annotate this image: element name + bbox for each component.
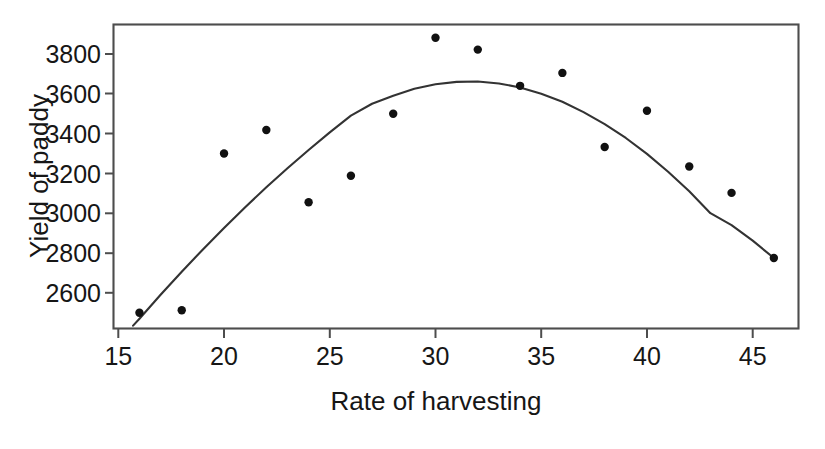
scatter-plot-svg: 3800 3600 3400 3200 3000 2800 2600 15 20… bbox=[0, 0, 825, 449]
y-axis-title: Yield of paddy bbox=[24, 94, 54, 258]
data-point bbox=[135, 309, 143, 317]
data-point bbox=[643, 107, 651, 115]
data-point bbox=[389, 110, 397, 118]
data-point bbox=[431, 33, 439, 41]
data-point bbox=[262, 126, 270, 134]
data-point bbox=[727, 189, 735, 197]
x-axis-tick-labels: 15 20 25 30 35 40 45 bbox=[104, 342, 766, 370]
x-axis-title: Rate of harvesting bbox=[330, 386, 541, 416]
x-tick-label-25: 25 bbox=[316, 342, 344, 370]
x-tick-label-45: 45 bbox=[739, 342, 767, 370]
data-point bbox=[304, 198, 312, 206]
data-point bbox=[220, 149, 228, 157]
x-tick-label-20: 20 bbox=[210, 342, 238, 370]
plot-frame bbox=[114, 25, 799, 329]
quadratic-fit-curve bbox=[133, 81, 774, 325]
data-points-group bbox=[135, 33, 778, 316]
data-point bbox=[474, 45, 482, 53]
y-tick-label-2600: 2600 bbox=[45, 279, 101, 307]
x-tick-label-15: 15 bbox=[104, 342, 132, 370]
data-point bbox=[558, 69, 566, 77]
data-point bbox=[770, 254, 778, 262]
data-point bbox=[178, 306, 186, 314]
fit-curve-group bbox=[133, 81, 774, 325]
y-axis-ticks bbox=[105, 54, 113, 293]
x-tick-label-30: 30 bbox=[422, 342, 450, 370]
y-tick-label-3800: 3800 bbox=[45, 40, 101, 68]
x-tick-label-40: 40 bbox=[633, 342, 661, 370]
chart-figure: 3800 3600 3400 3200 3000 2800 2600 15 20… bbox=[0, 0, 825, 449]
data-point bbox=[685, 162, 693, 170]
data-point bbox=[516, 82, 524, 90]
x-tick-label-35: 35 bbox=[527, 342, 555, 370]
data-point bbox=[347, 172, 355, 180]
x-axis-ticks bbox=[118, 329, 752, 338]
data-point bbox=[600, 143, 608, 151]
